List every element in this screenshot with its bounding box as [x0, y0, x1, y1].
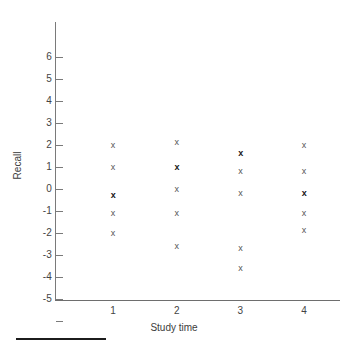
data-point-marker: x	[108, 140, 119, 151]
data-point-marker: x	[108, 162, 119, 173]
y-axis-tick-label: -1	[26, 206, 52, 216]
data-point-marker: x	[171, 137, 182, 148]
y-axis-tick-label: 5	[26, 74, 52, 84]
data-point-marker: x	[235, 166, 246, 177]
y-axis-tick-label: -3	[26, 250, 52, 260]
data-point-marker: x	[299, 188, 310, 199]
data-point-marker: x	[108, 228, 119, 239]
scatter-plot-figure: 6543210-1-2-3-4-5 1234 Recall Study time…	[0, 0, 348, 349]
y-axis-tick	[56, 123, 63, 124]
data-point-marker: x	[299, 166, 310, 177]
x-axis-tick-label: 4	[289, 305, 319, 316]
data-point-marker: x	[235, 263, 246, 274]
y-axis-tick-label: 1	[26, 162, 52, 172]
y-axis-tick-label: -2	[26, 228, 52, 238]
data-point-marker: x	[171, 241, 182, 252]
y-axis-tick	[56, 145, 63, 146]
y-axis-tick	[56, 255, 63, 256]
y-axis-tick	[56, 233, 63, 234]
y-axis-tick	[56, 189, 63, 190]
y-axis-title: Recall	[12, 136, 23, 196]
x-axis-title: Study time	[0, 322, 348, 333]
x-axis-line	[55, 300, 340, 301]
data-point-marker: x	[108, 208, 119, 219]
x-axis-tick-label: 1	[98, 305, 128, 316]
data-point-marker: x	[171, 162, 182, 173]
y-axis-tick	[56, 167, 63, 168]
y-axis-tick-label: 0	[26, 184, 52, 194]
y-axis-line	[55, 22, 56, 301]
y-axis-tick	[56, 277, 63, 278]
data-point-marker: x	[235, 243, 246, 254]
y-axis-tick	[56, 57, 63, 58]
y-axis-tick	[56, 79, 63, 80]
y-axis-tick-label: 4	[26, 96, 52, 106]
data-point-marker: x	[299, 208, 310, 219]
y-axis-tick-label: 6	[26, 52, 52, 62]
data-point-marker: x	[299, 140, 310, 151]
data-point-marker: x	[235, 188, 246, 199]
y-axis-tick	[56, 299, 63, 300]
footer-rule	[16, 338, 106, 340]
data-point-marker: x	[235, 148, 246, 159]
y-axis-tick-label: 2	[26, 140, 52, 150]
y-axis-tick-label: -5	[26, 294, 52, 304]
y-axis-tick-label: 3	[26, 118, 52, 128]
y-axis-tick-label: -4	[26, 272, 52, 282]
data-point-marker: x	[171, 184, 182, 195]
y-axis-tick	[56, 101, 63, 102]
x-axis-tick-label: 3	[225, 305, 255, 316]
y-axis-tick	[56, 211, 63, 212]
data-point-marker: x	[299, 225, 310, 236]
x-axis-tick-label: 2	[162, 305, 192, 316]
data-point-marker: x	[108, 190, 119, 201]
data-point-marker: x	[171, 208, 182, 219]
